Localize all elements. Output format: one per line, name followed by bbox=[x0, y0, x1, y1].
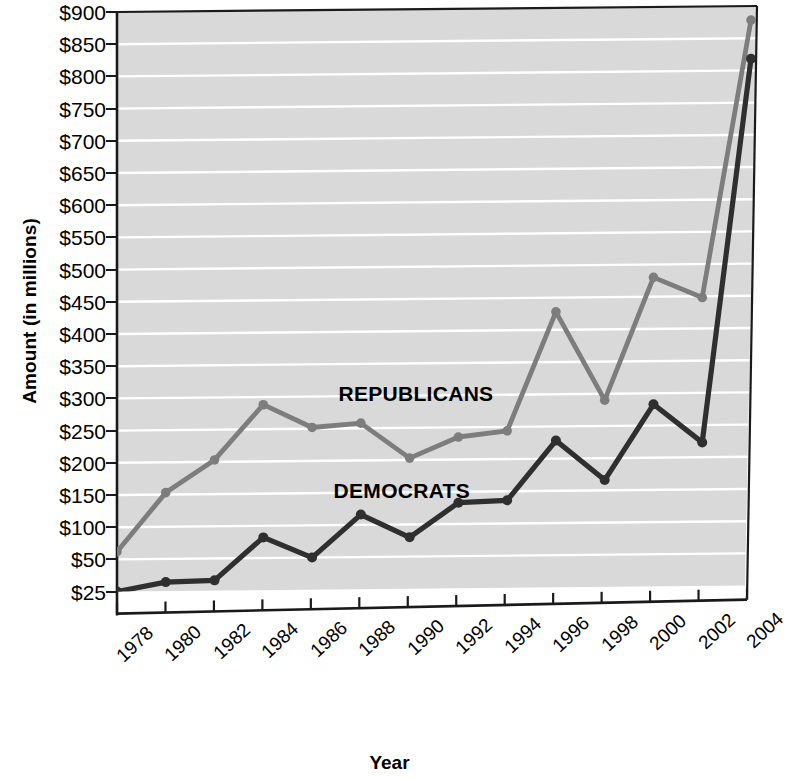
x-axis-title: Year bbox=[0, 752, 779, 774]
series-label-democrats: DEMOCRATS bbox=[334, 479, 470, 503]
series-label-republicans: REPUBLICANS bbox=[338, 382, 493, 406]
